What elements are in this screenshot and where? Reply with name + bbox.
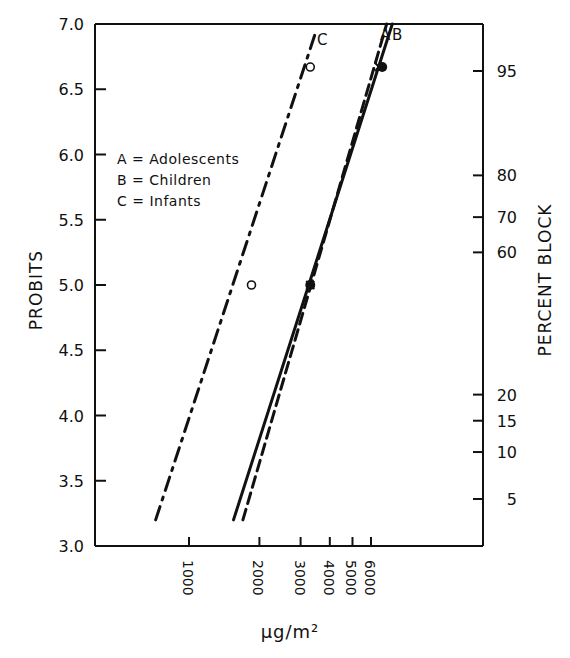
right-axis-title: PERCENT BLOCK xyxy=(535,203,555,356)
y-tick-label: 6.5 xyxy=(59,80,84,99)
data-point xyxy=(247,281,255,289)
series-label-a: A xyxy=(380,26,391,44)
legend: A = Adolescents B = Children C = Infants xyxy=(117,151,239,209)
right-tick-label: 10 xyxy=(497,443,517,462)
legend-entry-b: B = Children xyxy=(117,172,211,188)
x-tick-label: 1000 xyxy=(180,560,196,596)
data-point xyxy=(305,280,315,290)
right-y-axis: 958070602015105 xyxy=(473,62,517,509)
y-tick-label: 4.5 xyxy=(59,341,84,360)
right-tick-label: 60 xyxy=(497,243,517,262)
series-line-c xyxy=(156,31,317,520)
left-y-axis: 3.03.54.04.55.05.56.06.57.0 xyxy=(59,15,106,556)
series-label-c: C xyxy=(317,31,327,49)
y-tick-label: 4.0 xyxy=(59,407,84,426)
series-label-b: B xyxy=(392,26,402,44)
x-tick-label: 2000 xyxy=(250,560,266,596)
x-tick-label: 4000 xyxy=(321,560,337,596)
right-tick-label: 15 xyxy=(497,412,517,431)
data-point xyxy=(306,63,314,71)
legend-entry-c: C = Infants xyxy=(117,193,201,209)
x-axis-title: µg/m² xyxy=(261,621,320,642)
y-tick-label: 7.0 xyxy=(59,15,84,34)
legend-entry-a: A = Adolescents xyxy=(117,151,239,167)
right-tick-label: 95 xyxy=(497,62,517,81)
series-layer xyxy=(156,24,393,520)
series-line-b xyxy=(234,24,393,520)
probit-chart: 3.03.54.04.55.05.56.06.57.0 958070602015… xyxy=(0,0,570,658)
y-tick-label: 3.5 xyxy=(59,472,84,491)
right-tick-label: 70 xyxy=(497,208,517,227)
x-tick-label: 5000 xyxy=(343,560,359,596)
right-tick-label: 5 xyxy=(507,490,517,509)
y-tick-label: 3.0 xyxy=(59,537,84,556)
y-tick-label: 5.0 xyxy=(59,276,84,295)
y-tick-label: 6.0 xyxy=(59,146,84,165)
x-tick-label: 6000 xyxy=(362,560,378,596)
y-axis-title: PROBITS xyxy=(26,250,46,330)
right-tick-label: 20 xyxy=(497,386,517,405)
x-tick-label: 3000 xyxy=(292,560,308,596)
series-line-a xyxy=(243,24,387,520)
plot-frame xyxy=(95,24,483,546)
y-tick-label: 5.5 xyxy=(59,211,84,230)
right-tick-label: 80 xyxy=(497,166,517,185)
data-point xyxy=(377,62,387,72)
